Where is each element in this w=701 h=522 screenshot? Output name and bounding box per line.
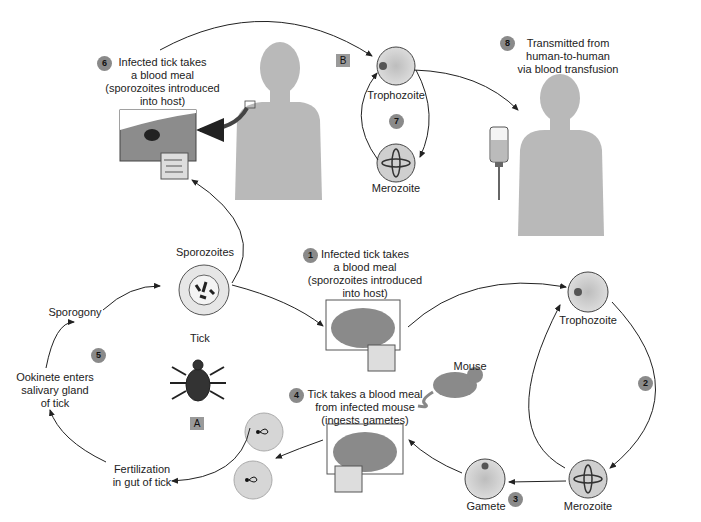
sporozoites-label: Sporozoites xyxy=(160,246,250,259)
tick-bite-skin-image xyxy=(120,110,196,179)
merozoite-human-cell xyxy=(377,144,415,182)
step-6-line-1: Infected tick takes xyxy=(100,56,225,69)
tick-label: Tick xyxy=(180,332,220,345)
trophozoite-human-label: Trophozoite xyxy=(366,89,426,102)
mouse-bite-image-2 xyxy=(327,424,403,492)
step-badge-7: 7 xyxy=(389,114,404,129)
step-1-line-1: Infected tick takes xyxy=(305,248,425,261)
step-1-label: Infected tick takes a blood meal (sporoz… xyxy=(305,248,425,300)
tick-illustration xyxy=(170,360,226,401)
mouse-label: Mouse xyxy=(445,360,495,373)
step-6-line-2: a blood meal xyxy=(100,69,225,82)
step-4-label: Tick takes a blood meal from infected mo… xyxy=(300,388,430,427)
trophozoite-mouse-cell xyxy=(568,272,608,312)
step-4-line-3: (ingests gametes) xyxy=(300,414,430,427)
step-1-line-2: a blood meal xyxy=(305,261,425,274)
gamete-label: Gamete xyxy=(462,500,510,513)
fertilization-label: Fertilization in gut of tick xyxy=(102,463,182,489)
step-8-label: Transmitted from human-to-human via bloo… xyxy=(508,37,628,76)
trophozoite-human-cell xyxy=(377,47,415,85)
step-6-line-3: (sporozoites introduced xyxy=(100,82,225,95)
ookinete-label: Ookinete enters salivary gland of tick xyxy=(10,371,100,410)
iv-blood-bag-icon xyxy=(490,127,508,200)
step-1-line-4: into host) xyxy=(305,287,425,300)
human-host-silhouette xyxy=(235,42,322,200)
step-8-line-1: Transmitted from xyxy=(508,37,628,50)
panel-label-b: B xyxy=(336,54,350,67)
sporogony-label: Sporogony xyxy=(40,306,110,319)
step-6-line-4: into host) xyxy=(100,95,225,108)
fertilization-line-1: Fertilization xyxy=(102,463,182,476)
step-badge-2: 2 xyxy=(638,376,653,391)
ookinete-line-3: of tick xyxy=(10,397,100,410)
step-badge-3: 3 xyxy=(508,492,523,507)
step-8-line-3: via blood transfusion xyxy=(508,63,628,76)
merozoite-mouse-label: Merozoite xyxy=(557,500,619,513)
gamete-cell xyxy=(465,459,505,499)
merozoite-human-label: Merozoite xyxy=(366,182,426,195)
step-1-line-3: (sporozoites introduced xyxy=(305,274,425,287)
babesia-life-cycle-diagram: 6 Infected tick takes a blood meal (spor… xyxy=(0,0,701,522)
step-badge-5: 5 xyxy=(91,348,106,363)
trophozoite-mouse-label: Trophozoite xyxy=(557,314,619,327)
fertilization-line-2: in gut of tick xyxy=(102,476,182,489)
step-6-label: Infected tick takes a blood meal (sporoz… xyxy=(100,56,225,108)
mouse-bite-image-1 xyxy=(326,300,400,371)
merozoite-mouse-cell xyxy=(569,460,607,498)
panel-label-a: A xyxy=(190,417,204,430)
human-recipient-silhouette xyxy=(518,74,604,236)
fertilized-gamete-cells xyxy=(234,413,283,499)
ookinete-line-1: Ookinete enters xyxy=(10,371,100,384)
step-8-line-2: human-to-human xyxy=(508,50,628,63)
step-4-line-2: from infected mouse xyxy=(300,401,430,414)
sporozoites-salivary-gland xyxy=(179,265,229,315)
step-4-line-1: Tick takes a blood meal xyxy=(300,388,430,401)
ookinete-line-2: salivary gland xyxy=(10,384,100,397)
